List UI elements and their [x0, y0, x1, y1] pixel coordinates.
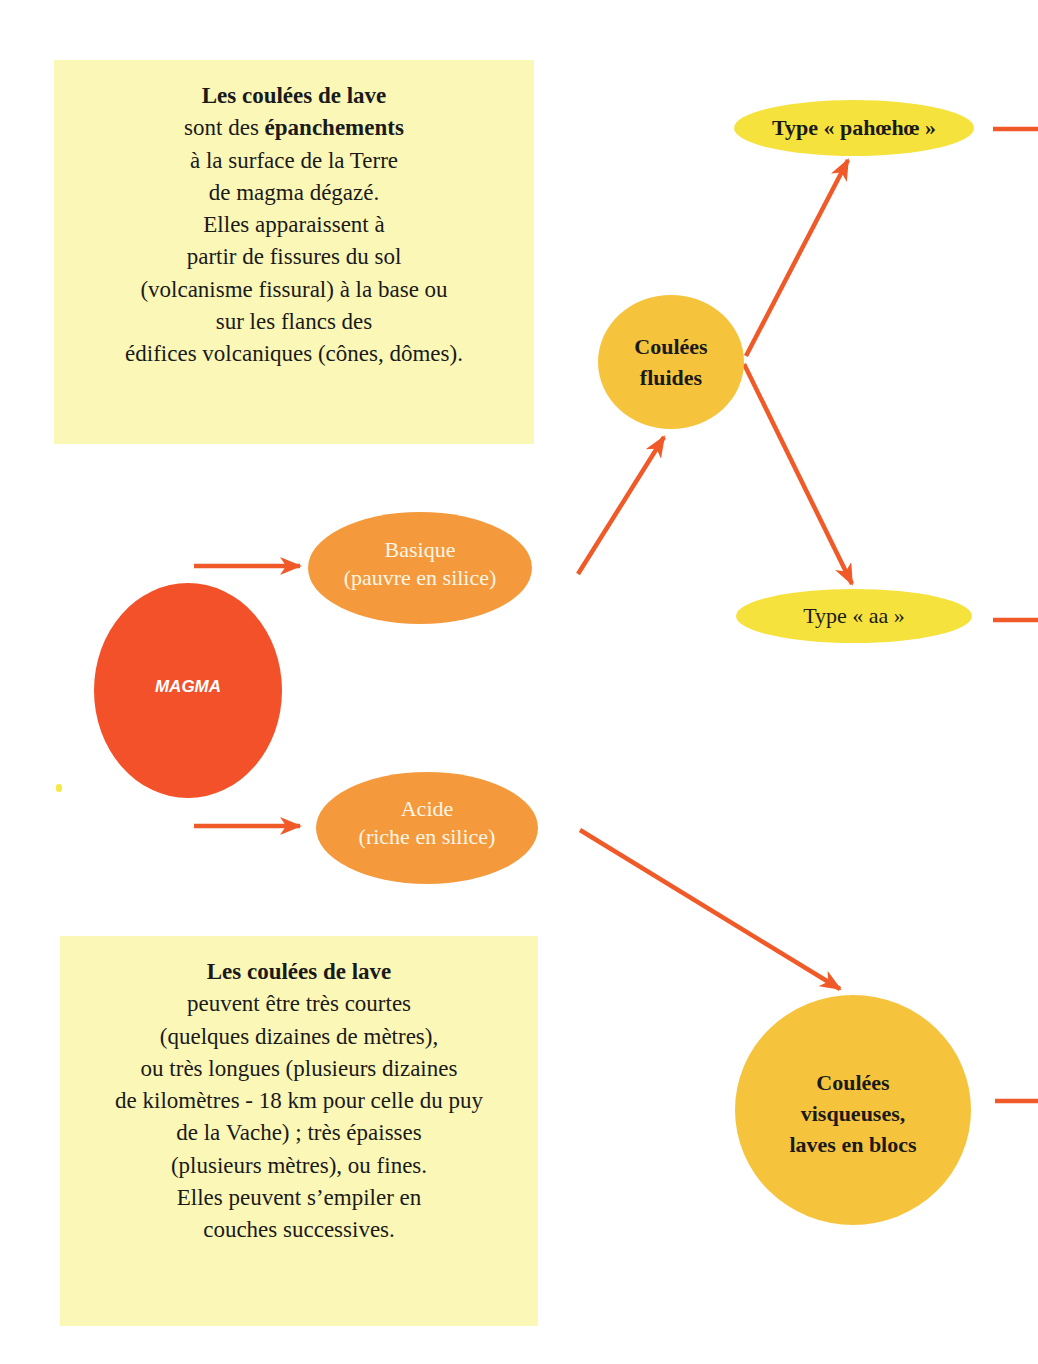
node-visqueuses-line1: Coulées: [789, 1067, 916, 1098]
node-coulees-fluides: Coulées fluides: [598, 295, 744, 429]
arrow-fluides-to-aa: [744, 364, 852, 584]
node-basique-title: Basique: [344, 536, 497, 564]
node-visqueuses-line2: visqueuses,: [789, 1098, 916, 1129]
node-fluides-line1: Coulées: [634, 331, 707, 362]
arrow-fluides-to-pahoehoe: [746, 160, 848, 356]
node-basique-subtitle: (pauvre en silice): [344, 564, 497, 592]
node-aa-label: Type « aa »: [803, 603, 905, 629]
arrow-acide-to-visqueuses: [580, 830, 840, 989]
node-visqueuses-line3: laves en blocs: [789, 1129, 916, 1160]
node-fluides-line2: fluides: [634, 362, 707, 393]
node-acide-title: Acide: [359, 795, 496, 823]
node-basique: Basique (pauvre en silice): [308, 512, 532, 624]
node-magma-label: MAGMA: [155, 677, 221, 697]
node-coulees-visqueuses: Coulées visqueuses, laves en blocs: [735, 995, 971, 1225]
node-magma: MAGMA: [94, 583, 282, 798]
node-type-aa: Type « aa »: [736, 589, 972, 643]
decorative-speck: [56, 784, 62, 792]
arrow-basique-to-fluides: [578, 437, 664, 574]
node-acide-subtitle: (riche en silice): [359, 823, 496, 851]
node-pahoehoe-label: Type « pahœhœ »: [772, 115, 936, 141]
node-acide: Acide (riche en silice): [316, 772, 538, 884]
node-type-pahoehoe: Type « pahœhœ »: [734, 100, 974, 156]
